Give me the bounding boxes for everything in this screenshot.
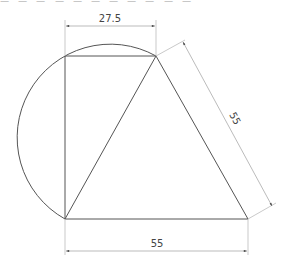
slant-edge xyxy=(156,56,248,219)
diagonal-edge xyxy=(65,56,156,219)
slant-dim-line xyxy=(183,42,272,206)
bottom-dim-label: 55 xyxy=(151,238,164,249)
slant-dim-label: 55 xyxy=(227,110,243,126)
circular-arc xyxy=(17,44,156,219)
slant-dim-ext-top xyxy=(156,40,185,56)
top-dim-label: 27.5 xyxy=(99,13,121,24)
geometry-diagram: 27.5 55 55 xyxy=(0,0,287,267)
